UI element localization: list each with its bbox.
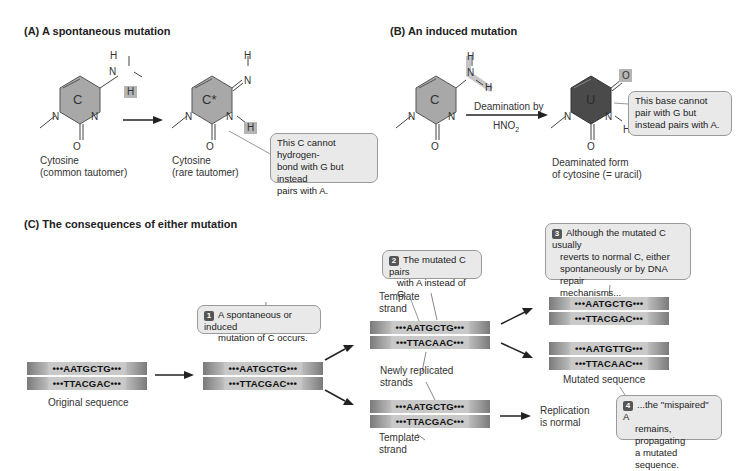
label-template-strand-lower: Template strand <box>379 432 420 456</box>
callout-line: Although the mutated C usually <box>552 227 666 250</box>
callout-step-2: 2The mutated C pairs with A instead of G… <box>382 250 482 279</box>
panel-c-title: (C) The consequences of either mutation <box>24 218 237 230</box>
strand-bottom: •••TTACGAC••• <box>370 415 490 428</box>
callout-line: A spontaneous or induced <box>204 309 292 332</box>
molecule-caption: Cytosine (rare tautomer) <box>172 155 239 179</box>
atom-n: N <box>244 75 251 87</box>
atom-n: N <box>564 111 571 123</box>
atom-o: O <box>73 141 81 153</box>
reagent-text: HNO <box>493 120 515 131</box>
callout-step-3: 3Although the mutated C usually reverts … <box>545 223 691 280</box>
callout-line: ...the "mispaired" A <box>623 399 709 422</box>
callout-line: This C cannot hydrogen- <box>277 137 371 161</box>
callout-line: pair with G but <box>635 107 725 119</box>
atom-o: O <box>431 141 439 153</box>
callout-line: pairs with A. <box>277 185 371 197</box>
callout-panel-b: This base cannot pair with G but instead… <box>628 91 732 136</box>
panel-a-title: (A) A spontaneous mutation <box>24 25 170 37</box>
step-number-badge: 3 <box>552 229 562 239</box>
strand-top: •••AATGCTG••• <box>203 362 323 375</box>
molecule-caption: Cytosine (common tautomer) <box>40 155 127 179</box>
atom-n: N <box>605 111 612 123</box>
atom-o-highlight: O <box>622 70 630 82</box>
callout-line: instead pairs with A. <box>635 119 725 131</box>
callout-line: This base cannot <box>635 95 725 107</box>
arrow-label: Deamination by <box>474 101 543 113</box>
dna-replicated-upper: •••AATGCTG••• •••TTACAAC••• <box>370 321 490 351</box>
strand-top: •••AATGTTG••• <box>549 342 669 355</box>
caption-line: (rare tautomer) <box>172 167 239 179</box>
label-replication-normal: Replication is normal <box>540 405 589 429</box>
caption-mutated: Mutated sequence <box>563 374 645 386</box>
callout-panel-a: This C cannot hydrogen- bond with G but … <box>270 133 378 183</box>
atom-n: N <box>408 111 415 123</box>
label-line: Template <box>379 432 420 444</box>
strand-top: •••AATGCTG••• <box>27 362 147 375</box>
strand-top: •••AATGCTG••• <box>370 321 490 334</box>
cytosine-common-ring-icon <box>40 56 142 140</box>
atom-h: H <box>244 50 251 62</box>
callout-line: a mutated sequence. <box>623 447 715 471</box>
caption-line: Deaminated form <box>552 157 642 169</box>
atom-n: N <box>448 111 455 123</box>
dna-replicated-lower: •••AATGCTG••• •••TTACGAC••• <box>370 400 490 430</box>
atom-n: N <box>185 111 192 123</box>
strand-bottom: •••TTACGAC••• <box>203 377 323 390</box>
molecule-caption: Deaminated form of cytosine (= uracil) <box>552 157 642 181</box>
step-number-badge: 1 <box>204 311 214 321</box>
callout-step-1: 1A spontaneous or induced mutation of C … <box>197 305 321 334</box>
label-line: strand <box>379 303 420 315</box>
strand-bottom: •••TTACGAC••• <box>549 312 669 325</box>
callout-line: with A instead of G. <box>389 277 475 299</box>
dna-reverted: •••AATGCTG••• •••TTACGAC••• <box>549 297 669 327</box>
atom-n: N <box>91 111 98 123</box>
reagent-label: HNO2 <box>493 120 519 136</box>
caption-line: Cytosine <box>172 155 239 167</box>
ring-label: U <box>586 94 595 106</box>
atom-h: H <box>110 50 117 62</box>
label-line: Replication <box>540 405 589 417</box>
atom-o: O <box>206 141 214 153</box>
strand-bottom: •••TTACAAC••• <box>370 336 490 349</box>
ring-label: C <box>430 94 439 106</box>
atom-h: H <box>485 82 492 94</box>
step-number-badge: 2 <box>389 256 399 266</box>
label-line: strand <box>379 444 420 456</box>
strand-bottom: •••TTACGAC••• <box>27 377 147 390</box>
dna-mutated: •••AATGTTG••• •••TTACAAC••• <box>549 342 669 372</box>
ring-label: C <box>73 94 82 106</box>
label-line: is normal <box>540 417 589 429</box>
callout-step-4: 4...the "mispaired" A remains, propagati… <box>616 395 722 440</box>
atom-h: H <box>467 51 474 63</box>
atom-n: N <box>467 67 474 79</box>
reagent-subscript: 2 <box>515 126 519 133</box>
callout-line: bond with G but instead <box>277 161 371 185</box>
caption-line: (common tautomer) <box>40 167 127 179</box>
callout-line: remains, propagating <box>623 423 715 447</box>
callout-line: The mutated C pairs <box>389 254 466 277</box>
atom-h-highlight: H <box>127 86 134 98</box>
strand-top: •••AATGCTG••• <box>370 400 490 413</box>
atom-n: N <box>52 111 59 123</box>
atom-n: N <box>226 111 233 123</box>
ring-label: C* <box>202 94 216 106</box>
dna-mutated-c: •••AATGCTG••• •••TTACGAC••• <box>203 362 323 392</box>
label-line: Newly replicated <box>380 365 453 377</box>
caption-line: Cytosine <box>40 155 127 167</box>
callout-line: reverts to normal C, either <box>552 251 684 263</box>
label-line: strands <box>380 377 453 389</box>
panel-b-title: (B) An induced mutation <box>390 25 517 37</box>
step-number-badge: 4 <box>623 401 633 411</box>
atom-o: O <box>587 141 595 153</box>
cytosine-b-ring-icon <box>396 56 493 140</box>
strand-bottom: •••TTACAAC••• <box>549 357 669 370</box>
caption-original: Original sequence <box>48 397 129 409</box>
dna-original: •••AATGCTG••• •••TTACGAC••• <box>27 362 147 392</box>
caption-line: of cytosine (= uracil) <box>552 169 642 181</box>
atom-h-highlight: H <box>247 122 254 134</box>
strand-top: •••AATGCTG••• <box>549 297 669 310</box>
label-newly-replicated: Newly replicated strands <box>380 365 453 389</box>
atom-n: N <box>109 66 116 78</box>
callout-line: spontaneously or by DNA repair <box>552 263 684 287</box>
callout-line: mutation of C occurs. <box>204 332 314 343</box>
